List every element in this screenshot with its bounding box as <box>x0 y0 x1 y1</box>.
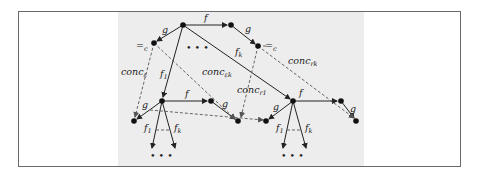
edge-midright-f1-down <box>283 101 293 148</box>
edge-midleft-f1-down <box>152 101 162 148</box>
node-mid-right <box>290 98 296 104</box>
label-g-top-right: g <box>245 23 251 34</box>
label-f1-top: f1 <box>159 68 168 81</box>
node-mid-right-f <box>338 98 344 104</box>
node-bottom-mid-g <box>235 118 241 124</box>
label-fk-bottom-left: fk <box>173 122 182 135</box>
label-f1-bottom-left: f1 <box>143 122 152 135</box>
label-g-top-left: g <box>162 24 168 35</box>
label-f-mid-right: f <box>298 87 304 98</box>
label-g-mid-right-a: g <box>273 101 279 112</box>
label-conc-eps: concε <box>121 66 147 79</box>
label-conc-r1: concr1 <box>237 84 267 97</box>
node-eq-left <box>151 40 157 46</box>
label-fk-top: fk <box>234 46 243 59</box>
node-top-right <box>228 22 234 28</box>
label-dots-top: • • • <box>186 42 209 53</box>
label-dots-bottom-left: • • • <box>150 150 173 161</box>
term-graph-diagram: f g g =c =c • • • fk f1 concε concεk con… <box>0 0 478 178</box>
node-eq-right <box>255 43 261 49</box>
label-g-mid-right-b: g <box>350 103 356 114</box>
node-mid-left-f <box>208 98 214 104</box>
label-f-mid-left: f <box>184 88 190 99</box>
label-conc-epsk: concεk <box>202 66 232 79</box>
label-fk-bottom-right: fk <box>304 122 313 135</box>
node-mid-left <box>159 98 165 104</box>
label-f-top: f <box>203 12 209 23</box>
label-g-mid-left-b: g <box>222 98 228 109</box>
label-f1-bottom-right: f1 <box>275 122 284 135</box>
node-bottom-right-g1 <box>263 118 269 124</box>
label-dots-bottom-right: • • • <box>281 150 304 161</box>
node-root <box>180 22 186 28</box>
edge-topright-g-eqright <box>231 25 255 44</box>
label-g-mid-left-a: g <box>142 99 148 110</box>
node-bottom-left-g <box>131 118 137 124</box>
labels: f g g =c =c • • • fk f1 concε concεk con… <box>121 12 356 161</box>
label-conc-rk: concrk <box>288 55 318 68</box>
label-eq-left: =c <box>136 40 148 53</box>
conc-r1-edge-main <box>241 46 258 117</box>
label-eq-right: =c <box>265 40 277 53</box>
node-bottom-right-g2 <box>353 118 359 124</box>
